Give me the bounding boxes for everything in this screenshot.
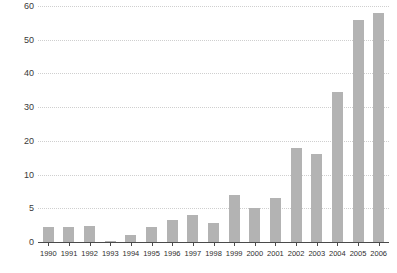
- bar-2005: [353, 20, 364, 243]
- gridline-60: [38, 6, 389, 7]
- y-axis-tick-label-20: 20: [4, 136, 34, 145]
- x-axis-tick-label-1994: 1994: [123, 250, 140, 258]
- bar-2002: [291, 148, 302, 242]
- x-axis-tick-1998: [214, 242, 215, 246]
- x-axis-tick-1996: [172, 242, 173, 246]
- y-axis-tick-label-0: 0: [4, 238, 34, 247]
- gridline-40: [38, 73, 389, 74]
- x-axis-tick-2000: [255, 242, 256, 246]
- y-axis-tick-label-10: 10: [4, 170, 34, 179]
- y-axis-tick-label-50: 50: [4, 35, 34, 44]
- plot-area: 0510203040506019901991199219931994199519…: [38, 6, 389, 242]
- x-axis-tick-label-2006: 2006: [370, 250, 387, 258]
- x-axis-tick-label-1997: 1997: [185, 250, 202, 258]
- x-axis-tick-1999: [234, 242, 235, 246]
- bar-1999: [229, 195, 240, 242]
- x-axis-tick-2001: [275, 242, 276, 246]
- x-axis-tick-2005: [358, 242, 359, 246]
- x-axis-tick-label-1990: 1990: [40, 250, 57, 258]
- y-axis-tick-label-5: 5: [4, 204, 34, 213]
- gridline-50: [38, 40, 389, 41]
- x-axis-tick-label-2000: 2000: [246, 250, 263, 258]
- x-axis-tick-label-2005: 2005: [350, 250, 367, 258]
- bar-2006: [373, 13, 384, 242]
- bar-1991: [63, 227, 74, 242]
- bar-1994: [125, 235, 136, 242]
- x-axis-tick-1992: [90, 242, 91, 246]
- bar-2000: [249, 208, 260, 242]
- x-axis-tick-label-1999: 1999: [226, 250, 243, 258]
- bar-1998: [208, 223, 219, 242]
- bar-chart: 0510203040506019901991199219931994199519…: [0, 0, 397, 273]
- bar-2001: [270, 198, 281, 242]
- x-axis-tick-label-2002: 2002: [288, 250, 305, 258]
- x-axis-tick-2002: [296, 242, 297, 246]
- bar-1997: [187, 215, 198, 242]
- x-axis-tick-label-1998: 1998: [205, 250, 222, 258]
- bar-1995: [146, 227, 157, 243]
- x-axis-tick-label-1993: 1993: [102, 250, 119, 258]
- x-axis-tick-1993: [110, 242, 111, 246]
- x-axis-tick-1997: [193, 242, 194, 246]
- y-axis-tick-label-40: 40: [4, 69, 34, 78]
- x-axis-tick-1990: [48, 242, 49, 246]
- x-axis-tick-1991: [69, 242, 70, 246]
- bar-2004: [332, 92, 343, 242]
- x-axis-tick-label-1995: 1995: [143, 250, 160, 258]
- x-axis-tick-1995: [152, 242, 153, 246]
- bar-2003: [311, 154, 322, 242]
- y-axis-tick-label-30: 30: [4, 103, 34, 112]
- y-axis-tick-label-60: 60: [4, 2, 34, 11]
- x-axis-tick-2003: [317, 242, 318, 246]
- x-axis-tick-2004: [337, 242, 338, 246]
- x-axis-tick-label-2003: 2003: [308, 250, 325, 258]
- bar-1990: [43, 227, 54, 242]
- x-axis-tick-2006: [379, 242, 380, 246]
- x-axis-tick-label-1992: 1992: [81, 250, 98, 258]
- x-axis-tick-label-1991: 1991: [61, 250, 78, 258]
- bar-1992: [84, 226, 95, 242]
- x-axis-tick-1994: [131, 242, 132, 246]
- bar-1996: [167, 220, 178, 242]
- x-axis-tick-label-2004: 2004: [329, 250, 346, 258]
- x-axis-tick-label-1996: 1996: [164, 250, 181, 258]
- x-axis-tick-label-2001: 2001: [267, 250, 284, 258]
